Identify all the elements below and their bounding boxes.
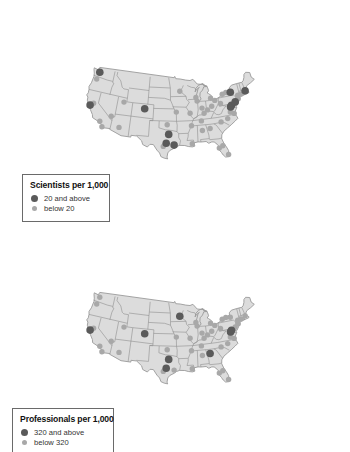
city-dot-low (232, 336, 237, 341)
city-dot-low (200, 128, 205, 133)
city-dot-high (86, 101, 94, 109)
city-dot-low (94, 301, 99, 306)
city-dot-low (187, 111, 192, 116)
city-dot-high (228, 326, 236, 334)
city-dot-low (174, 334, 179, 339)
city-dot-low (207, 126, 212, 131)
city-dot-high (176, 313, 184, 321)
city-dot-low (226, 377, 231, 382)
city-dot-low (99, 124, 104, 129)
city-dot-low (199, 118, 204, 123)
city-dot-high (165, 131, 173, 139)
city-dot-low (199, 105, 204, 110)
light-dot-icon (32, 206, 37, 211)
city-dot-low (194, 98, 199, 103)
city-dot-low (205, 107, 210, 112)
city-dot-low (190, 141, 195, 146)
dark-dot-icon (21, 429, 28, 436)
legend-high-label: 320 and above (34, 428, 84, 437)
city-dot-low (187, 336, 192, 341)
light-dot-icon (22, 440, 27, 445)
legend-row-high: 20 and above (30, 193, 102, 203)
city-dot-low (174, 109, 179, 114)
city-dot-low (218, 119, 223, 124)
city-dot-low (97, 344, 102, 349)
city-dot-low (220, 368, 225, 373)
city-dot-low (226, 152, 231, 157)
city-dot-high (165, 356, 173, 364)
city-dot-low (165, 122, 170, 127)
city-dot-low (238, 316, 243, 321)
city-dot-high (170, 141, 178, 149)
city-dot-low (212, 98, 217, 103)
legend-low-label: below 20 (44, 204, 74, 213)
city-dot-high (231, 98, 239, 106)
city-dot-low (94, 76, 99, 81)
city-dot-low (220, 92, 225, 97)
legend-row-low: below 20 (30, 203, 102, 213)
city-dot-low (225, 116, 230, 121)
city-dot-low (209, 329, 214, 334)
dark-dot-icon (31, 195, 38, 202)
city-dot-low (205, 332, 210, 337)
legend-high-label: 20 and above (44, 194, 90, 203)
city-dot-low (232, 111, 237, 116)
city-dot-low (171, 367, 176, 372)
city-dot-low (121, 99, 126, 104)
city-dot-high (96, 69, 104, 77)
city-dot-low (177, 89, 182, 94)
city-dot-low (218, 326, 223, 331)
city-dot-low (200, 353, 205, 358)
city-dot-high (241, 87, 249, 95)
legend-row-low: below 320 (20, 437, 106, 447)
city-dot-low (109, 339, 114, 344)
city-dot-low (218, 101, 223, 106)
city-dot-low (209, 104, 214, 109)
legend-row-high: 320 and above (20, 427, 106, 437)
city-dot-low (218, 344, 223, 349)
city-dot-high (141, 330, 149, 338)
city-dot-low (97, 295, 102, 300)
city-dot-high (86, 326, 94, 334)
city-dot-low (121, 324, 126, 329)
city-dot-low (189, 348, 194, 353)
professionals-legend: Professionals per 1,000 320 and above be… (12, 408, 114, 452)
city-dot-low (220, 317, 225, 322)
scientists-legend: Scientists per 1,000 20 and above below … (22, 174, 110, 222)
city-dot-high (141, 105, 149, 113)
city-dot-high (227, 88, 235, 96)
city-dot-low (212, 323, 217, 328)
city-dot-low (225, 341, 230, 346)
city-dot-high (162, 140, 170, 148)
city-dot-low (199, 343, 204, 348)
city-dot-low (97, 119, 102, 124)
city-dot-low (189, 123, 194, 128)
city-dot-high (162, 365, 170, 373)
city-dot-low (194, 323, 199, 328)
legend-low-label: below 320 (34, 438, 69, 447)
city-dot-low (116, 350, 121, 355)
city-dot-low (220, 143, 225, 148)
city-dot-low (199, 330, 204, 335)
scientists-map: Scientists per 1,000 20 and above below … (0, 0, 350, 225)
city-dot-high (206, 350, 214, 358)
city-dot-low (165, 347, 170, 352)
city-dot-low (99, 349, 104, 354)
city-dot-low (109, 114, 114, 119)
legend-title: Scientists per 1,000 (30, 180, 102, 190)
city-dot-low (190, 366, 195, 371)
legend-title: Professionals per 1,000 (20, 414, 106, 424)
city-dot-low (116, 125, 121, 130)
